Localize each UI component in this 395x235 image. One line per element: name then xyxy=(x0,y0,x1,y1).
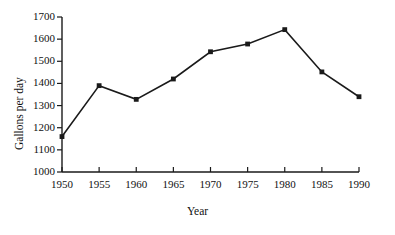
data-point xyxy=(357,94,362,99)
x-axis-tick-label: 1990 xyxy=(342,179,376,190)
data-point xyxy=(60,134,65,139)
y-axis-tick-label: 1700 xyxy=(21,11,55,22)
data-point xyxy=(134,97,139,102)
y-axis-title: Gallons per day xyxy=(13,77,25,150)
x-axis-tick-label: 1970 xyxy=(194,179,228,190)
y-axis-tick-label: 1300 xyxy=(21,100,55,111)
data-point xyxy=(245,42,250,47)
x-axis-tick-label: 1960 xyxy=(119,179,153,190)
y-axis-tick-label: 1100 xyxy=(21,144,55,155)
y-axis-tick-label: 1400 xyxy=(21,77,55,88)
x-axis-ticks xyxy=(62,167,359,172)
x-axis-tick-label: 1975 xyxy=(231,179,265,190)
data-line xyxy=(62,30,359,137)
data-point xyxy=(208,49,213,54)
data-point xyxy=(319,70,324,75)
x-axis-tick-label: 1980 xyxy=(268,179,302,190)
y-axis-tick-label: 1200 xyxy=(21,122,55,133)
x-axis-title: Year xyxy=(0,205,395,217)
x-axis-tick-label: 1955 xyxy=(82,179,116,190)
data-point xyxy=(171,77,176,82)
x-axis-tick-label: 1985 xyxy=(305,179,339,190)
line-chart: 10001100120013001400150016001700 1950195… xyxy=(0,0,395,235)
data-point xyxy=(97,83,102,88)
y-axis-tick-label: 1500 xyxy=(21,55,55,66)
y-axis-tick-label: 1000 xyxy=(21,166,55,177)
x-axis-tick-label: 1965 xyxy=(156,179,190,190)
x-axis-tick-label: 1950 xyxy=(45,179,79,190)
y-axis-tick-label: 1600 xyxy=(21,33,55,44)
data-point xyxy=(282,27,287,32)
chart-canvas xyxy=(0,0,395,235)
axes xyxy=(62,17,359,172)
y-axis-ticks xyxy=(57,17,62,172)
data-point-markers xyxy=(60,27,362,139)
